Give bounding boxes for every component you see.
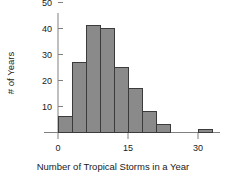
y-tick-label: 10	[42, 102, 52, 112]
histogram-svg: 1020304050 01530 Number of Tropical Stor…	[0, 0, 227, 178]
y-axis-title: # of Years	[5, 52, 16, 95]
histogram-bar	[100, 29, 114, 133]
bar-series	[58, 26, 212, 133]
x-axis-title: Number of Tropical Storms in a Year	[37, 161, 190, 172]
plot-area: 1020304050 01530 Number of Tropical Stor…	[0, 0, 227, 178]
histogram-bar	[86, 26, 100, 133]
histogram-bar	[128, 88, 142, 132]
x-tick-label: 30	[193, 143, 203, 153]
y-tick-label: 20	[42, 76, 52, 86]
histogram-bar	[114, 68, 128, 133]
y-axis-ticks	[58, 3, 63, 107]
y-axis-tick-labels: 1020304050	[42, 0, 52, 112]
histogram-bar	[156, 125, 170, 133]
y-tick-label: 50	[42, 0, 52, 8]
y-tick-label: 40	[42, 24, 52, 34]
y-tick-label: 30	[42, 50, 52, 60]
histogram-bar	[198, 130, 212, 133]
x-tick-label: 0	[55, 143, 60, 153]
histogram-bar	[72, 62, 86, 132]
histogram-bar	[142, 112, 156, 133]
x-axis-tick-labels: 01530	[55, 143, 203, 153]
x-axis-ticks	[58, 133, 198, 140]
histogram-figure: 1020304050 01530 Number of Tropical Stor…	[0, 0, 227, 178]
histogram-bar	[58, 117, 72, 133]
x-tick-label: 15	[123, 143, 133, 153]
